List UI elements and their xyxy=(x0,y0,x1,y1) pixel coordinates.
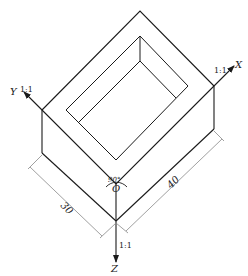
box-outer xyxy=(42,11,214,221)
dim-ext-right-2 xyxy=(116,223,128,233)
y-axis-label: Y xyxy=(10,86,18,97)
inner-rim-back-edges xyxy=(66,36,188,110)
inner-rim-front-edges xyxy=(66,86,188,160)
axes xyxy=(24,66,234,262)
z-axis-scale: 1:1 xyxy=(119,241,132,250)
y-axis-scale: 1:1 xyxy=(20,85,33,94)
dim-ext-right-1 xyxy=(214,131,224,141)
x-axis-label: X xyxy=(234,59,243,70)
top-face-front-edges xyxy=(42,86,214,184)
box-inner-opening xyxy=(66,36,188,160)
inner-floor-left xyxy=(79,61,140,122)
dim-ext-left-2 xyxy=(100,223,116,238)
x-axis-scale: 1:1 xyxy=(214,66,227,75)
bottom-right-edge xyxy=(116,129,214,221)
z-axis-label: Z xyxy=(110,263,119,274)
inner-floor-right xyxy=(140,61,176,98)
dim-label-40: 40 xyxy=(164,173,182,191)
bottom-left-edge xyxy=(42,153,116,221)
top-face-back-edges xyxy=(42,11,214,110)
diagram-canvas: Y 1:1 1:1 X 1:1 Z O 90° 30 40 xyxy=(0,0,248,276)
dim-label-30: 30 xyxy=(59,200,76,217)
origin-label: O xyxy=(112,183,120,194)
angle-label: 90° xyxy=(108,176,120,184)
y-axis-arrow xyxy=(24,92,42,110)
